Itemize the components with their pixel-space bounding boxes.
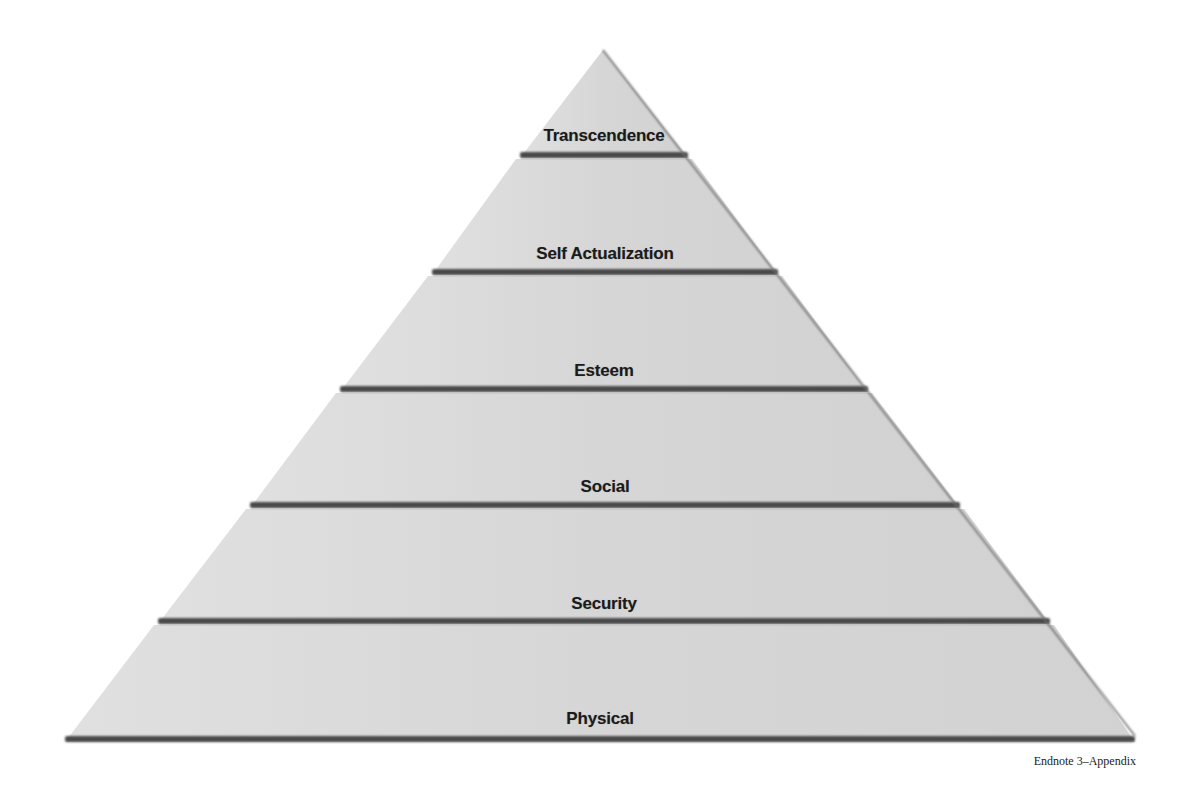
tier-divider [158, 618, 1050, 624]
endnote-caption: Endnote 3–Appendix [1034, 754, 1136, 769]
tier-divider [520, 152, 688, 158]
tier-label-physical: Physical [566, 709, 633, 729]
pyramid-graphic [0, 0, 1194, 808]
pyramid-diagram: Transcendence Self Actualization Esteem … [0, 0, 1194, 808]
tier-divider [432, 269, 778, 275]
tier-label-transcendence: Transcendence [543, 126, 664, 146]
tier-divider [340, 386, 868, 392]
tier-label-social: Social [581, 477, 630, 497]
tier-label-security: Security [571, 594, 637, 614]
tier-label-self-actualization: Self Actualization [536, 244, 673, 264]
tier-divider [250, 502, 960, 508]
tier-label-esteem: Esteem [574, 361, 633, 381]
tier-divider [65, 736, 1135, 742]
